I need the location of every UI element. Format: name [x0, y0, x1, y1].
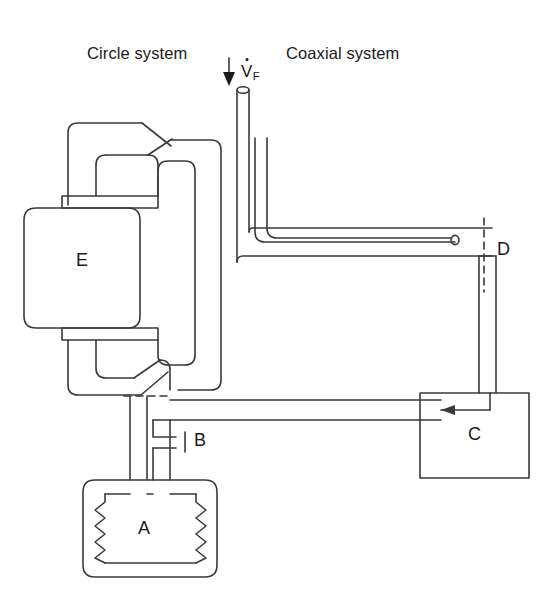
- inspiratory-one-way-valve: [106, 123, 172, 155]
- circle-upper-limb-inner: [96, 155, 158, 196]
- circle-inner-loop: [158, 161, 195, 365]
- fresh-gas-arrowhead: [223, 72, 235, 86]
- component-label-B: B: [194, 430, 206, 451]
- component-label-D: D: [497, 239, 510, 260]
- drop-tube-right: [153, 420, 170, 480]
- flow-subscript: F: [252, 70, 260, 82]
- port-B: [153, 420, 185, 452]
- flow-symbol: V: [241, 62, 252, 81]
- riser-tube-D-to-C: [479, 256, 496, 393]
- component-label-A: A: [138, 518, 150, 539]
- fresh-gas-inlet-tube: [237, 87, 249, 262]
- component-label-C: C: [468, 424, 481, 445]
- figure-canvas: Circle system Coaxial system VF E A B C …: [0, 0, 555, 601]
- absorber-top-collar: [62, 196, 158, 208]
- transfer-tube-to-reservoir: [153, 400, 441, 420]
- circuit-schematic: [0, 0, 555, 601]
- drop-tube-left: [130, 396, 147, 480]
- reservoir-outflow-arrowhead: [441, 405, 455, 415]
- heading-coaxial-system: Coaxial system: [286, 44, 399, 63]
- circle-upper-limb-outer: [68, 123, 221, 390]
- component-label-E: E: [76, 250, 88, 271]
- fresh-gas-flow-label: VF: [241, 62, 260, 82]
- absorber-bottom-collar: [62, 328, 158, 340]
- heading-circle-system: Circle system: [87, 44, 187, 63]
- circle-lower-limb-outer: [68, 340, 141, 395]
